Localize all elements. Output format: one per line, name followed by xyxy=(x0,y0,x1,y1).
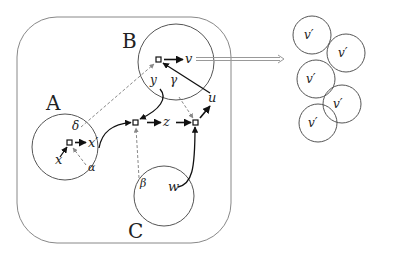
label-y: y xyxy=(149,73,157,87)
edge-square-right-to-u xyxy=(200,106,210,118)
region-c-circle xyxy=(134,166,194,226)
diagram-canvas: B A C v y γ u δ x′ x α z β w v′ v′ v′ v′ xyxy=(0,0,402,253)
label-beta: β xyxy=(139,177,146,190)
edge-x-prime-to-square-mid xyxy=(99,123,131,149)
v-copy-circle-5 xyxy=(299,104,337,142)
node-square-b xyxy=(156,57,161,62)
region-label-c: C xyxy=(128,219,143,243)
dashed-edge-alpha-to-square-a xyxy=(73,148,86,165)
label-v: v xyxy=(185,51,193,66)
label-u: u xyxy=(208,90,216,105)
edge-w-to-square-right xyxy=(178,127,195,187)
label-w: w xyxy=(168,179,179,194)
double-arrow-head xyxy=(278,55,284,63)
v-copy-circle-3 xyxy=(297,60,335,98)
v-copy-label-1: v′ xyxy=(304,28,314,42)
label-x-prime: x′ xyxy=(88,135,98,150)
dashed-edge-beta-to-square-mid xyxy=(136,128,139,178)
v-copies: v′ v′ v′ v′ v′ xyxy=(293,16,365,142)
node-square-mid xyxy=(133,120,138,125)
edge-y-to-square-mid xyxy=(140,89,163,119)
region-label-a: A xyxy=(45,91,61,115)
label-alpha: α xyxy=(88,161,96,174)
region-label-b: B xyxy=(122,29,137,53)
node-square-a xyxy=(67,140,72,145)
label-gamma: γ xyxy=(170,73,178,87)
v-copy-label-3: v′ xyxy=(306,72,316,86)
v-copy-label-4: v′ xyxy=(333,97,343,111)
label-x: x xyxy=(55,152,63,167)
v-copy-label-2: v′ xyxy=(338,46,348,60)
label-z: z xyxy=(162,114,170,129)
label-delta: δ xyxy=(72,119,79,133)
v-copy-label-5: v′ xyxy=(308,116,318,130)
node-square-right xyxy=(193,120,198,125)
